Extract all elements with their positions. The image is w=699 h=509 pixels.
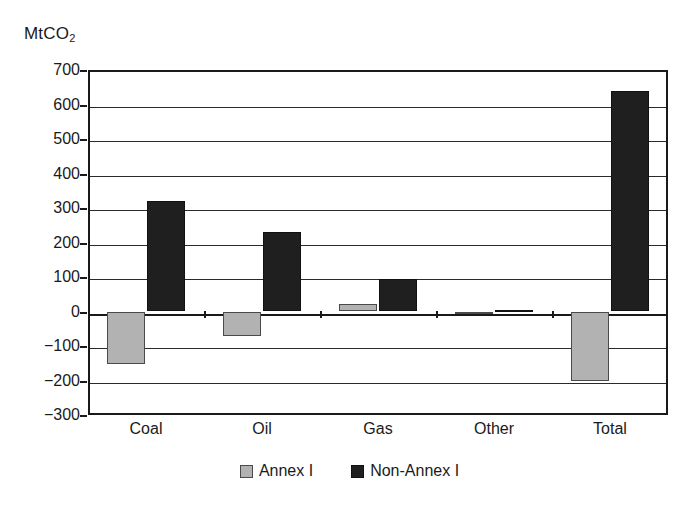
legend-label: Annex I: [259, 462, 313, 480]
y-axis-unit-label: MtCO2: [24, 24, 76, 44]
gridline: [90, 107, 666, 108]
x-axis-tick-mark: [204, 311, 206, 318]
x-axis-tick-mark: [320, 311, 322, 318]
y-axis-tick-mark: [80, 174, 87, 176]
y-axis-tick-label: 600: [8, 96, 80, 114]
legend-item-annex-i[interactable]: Annex I: [240, 462, 313, 480]
gridline: [90, 141, 666, 142]
x-axis-ticks: [88, 311, 668, 319]
y-axis: 7006005004003002001000−100−200−300: [0, 70, 80, 415]
bar-chart: MtCO2 7006005004003002001000−100−200−300…: [0, 0, 699, 509]
gridline: [90, 279, 666, 280]
y-axis-unit-base: MtCO: [24, 24, 69, 43]
y-axis-tick-mark: [80, 277, 87, 279]
y-axis-tick-label: 400: [8, 165, 80, 183]
y-axis-tick-label: 0: [8, 303, 80, 321]
y-axis-tick-mark: [80, 346, 87, 348]
y-axis-tick-mark: [80, 105, 87, 107]
x-axis-tick-mark: [552, 311, 554, 318]
y-axis-unit-subscript: 2: [69, 32, 75, 44]
y-axis-tick-mark: [80, 312, 87, 314]
y-axis-tick-label: 200: [8, 234, 80, 252]
x-axis-label-other: Other: [474, 420, 514, 438]
x-axis-labels: CoalOilGasOtherTotal: [88, 420, 668, 446]
x-axis-tick-mark: [436, 311, 438, 318]
y-axis-tick-mark: [80, 139, 87, 141]
y-axis-tick-label: 700: [8, 61, 80, 79]
y-axis-tick-label: −200: [8, 372, 80, 390]
chart-legend: Annex INon-Annex I: [0, 462, 699, 480]
legend-swatch-icon: [240, 465, 253, 478]
legend-swatch-icon: [351, 465, 364, 478]
x-axis-label-oil: Oil: [252, 420, 272, 438]
gridline: [90, 176, 666, 177]
legend-label: Non-Annex I: [370, 462, 459, 480]
y-axis-tick-label: 500: [8, 130, 80, 148]
gridline: [90, 245, 666, 246]
y-axis-tick-mark: [80, 243, 87, 245]
plot-area: [88, 70, 668, 415]
y-axis-tick-mark: [80, 208, 87, 210]
y-axis-tick-label: 100: [8, 268, 80, 286]
y-axis-tick-label: −100: [8, 337, 80, 355]
y-axis-tick-mark: [80, 415, 87, 417]
y-axis-tick-mark: [80, 70, 87, 72]
x-axis-label-total: Total: [593, 420, 627, 438]
y-axis-tick-label: −300: [8, 406, 80, 424]
x-axis-label-gas: Gas: [363, 420, 392, 438]
x-axis-label-coal: Coal: [130, 420, 163, 438]
gridline: [90, 210, 666, 211]
y-axis-tick-mark: [80, 381, 87, 383]
gridline: [90, 383, 666, 384]
legend-item-non-annex-i[interactable]: Non-Annex I: [351, 462, 459, 480]
gridline: [90, 348, 666, 349]
y-axis-tick-label: 300: [8, 199, 80, 217]
